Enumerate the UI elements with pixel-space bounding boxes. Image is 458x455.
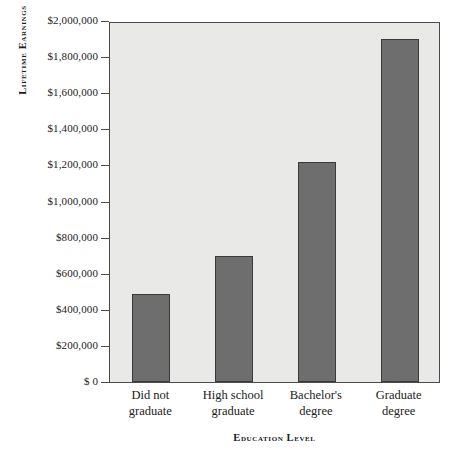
y-axis-tick-mark [101,274,109,275]
bar[interactable] [215,256,253,382]
x-axis-tick-label: Bachelor'sdegree [271,388,361,419]
y-axis-tick-mark [101,238,109,239]
x-axis-tick-label: Did notgraduate [105,388,195,419]
y-axis-tick-mark [101,129,109,130]
bar[interactable] [381,39,419,382]
bar-chart-figure: Lifetime Earnings $ 0$200,000$400,000$60… [0,0,458,455]
y-axis-tick-mark [101,21,109,22]
bar-slot [276,23,359,382]
y-axis-tick-label: $800,000 [56,231,98,243]
y-axis-tick-label: $2,000,000 [48,14,99,26]
y-axis-tick-mark [101,57,109,58]
y-axis-tick-mark [101,310,109,311]
x-axis-tick-label-line: degree [271,404,361,420]
x-axis-tick-label-line: graduate [188,404,278,420]
y-axis-tick-label: $ 0 [84,375,98,387]
y-axis-tick-mark [101,202,109,203]
x-axis-tick-label-line: High school [188,388,278,404]
x-axis-tick-label-line: Bachelor's [271,388,361,404]
x-axis-tick-label: High schoolgraduate [188,388,278,419]
bars-layer [110,23,439,382]
y-axis-tick-mark [101,93,109,94]
x-axis-tick-label-line: degree [354,404,444,420]
x-axis-tick-label-line: Did not [105,388,195,404]
y-axis-tick-label: $1,400,000 [48,122,99,134]
y-axis-tick-label: $1,800,000 [48,50,99,62]
y-axis-tick-label: $400,000 [56,303,98,315]
plot-area [109,22,440,383]
y-axis-tick-mark [101,165,109,166]
x-axis-tick-label-line: graduate [105,404,195,420]
y-axis-tick-label: $200,000 [56,339,98,351]
bar[interactable] [298,162,336,382]
bar-slot [110,23,193,382]
x-axis-tick-label-line: Graduate [354,388,444,404]
bar[interactable] [132,294,170,382]
bar-slot [193,23,276,382]
bar-slot [358,23,441,382]
y-axis-tick-label: $1,000,000 [48,195,99,207]
x-axis-title: Education Level [109,432,440,443]
y-axis-tick-mark [101,382,109,383]
y-axis-tick-mark [101,346,109,347]
y-axis-tick-layer: $ 0$200,000$400,000$600,000$800,000$1,00… [0,0,109,455]
y-axis-tick-label: $1,600,000 [48,86,99,98]
y-axis-tick-label: $600,000 [56,267,98,279]
x-axis-tick-layer: Did notgraduateHigh schoolgraduateBachel… [109,388,440,434]
x-axis-tick-label: Graduatedegree [354,388,444,419]
y-axis-tick-label: $1,200,000 [48,158,99,170]
